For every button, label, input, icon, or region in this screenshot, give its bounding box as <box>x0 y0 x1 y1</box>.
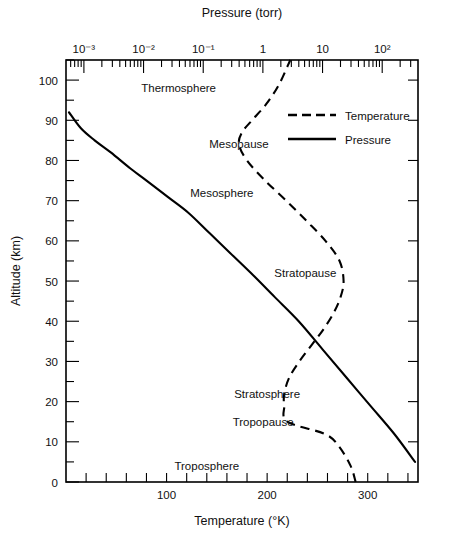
x-tick-label: 100 <box>157 489 176 501</box>
series-pressure-line <box>69 112 415 462</box>
y-tick-label: 90 <box>45 115 58 127</box>
y-tick-label: 30 <box>45 356 58 368</box>
y-tick-label: 70 <box>45 195 58 207</box>
top-tick-label: 10 <box>316 43 329 55</box>
x-tick-label: 300 <box>358 489 377 501</box>
x-axis-title: Temperature (°K) <box>194 514 289 528</box>
bottom-axis-tick-labels: 100200300 <box>157 489 377 501</box>
chart-figure: Pressure (torr) 10⁻³10⁻²10⁻¹11010² 01020… <box>0 0 476 541</box>
layer-label-stratopause: Stratopause <box>274 267 336 279</box>
right-axis-ticks <box>408 80 418 442</box>
y-tick-label: 0 <box>52 477 58 489</box>
top-axis-tick-labels: 10⁻³10⁻²10⁻¹11010² <box>73 43 391 55</box>
top-tick-label: 10⁻² <box>132 43 155 55</box>
legend-label-pressure: Pressure <box>345 134 391 146</box>
y-axis-title: Altitude (km) <box>9 236 23 306</box>
layer-label-mesopause: Mesopause <box>209 138 268 150</box>
bottom-axis-ticks <box>86 473 408 482</box>
y-tick-label: 60 <box>45 235 58 247</box>
y-tick-label: 50 <box>45 276 58 288</box>
top-tick-label: 1 <box>260 43 266 55</box>
top-tick-label: 10⁻¹ <box>192 43 215 55</box>
top-axis-title-group: Pressure (torr) <box>202 6 283 20</box>
layer-label-troposphere: Troposphere <box>174 460 239 472</box>
y-tick-label: 80 <box>45 155 58 167</box>
top-axis-ticks <box>71 60 411 73</box>
left-axis-tick-labels: 0102030405060708090100 <box>39 75 58 489</box>
y-tick-label: 100 <box>39 75 58 87</box>
top-tick-label: 10⁻³ <box>73 43 96 55</box>
chart-legend: TemperaturePressure <box>288 110 410 146</box>
x-tick-label: 200 <box>258 489 277 501</box>
top-tick-label: 10² <box>374 43 391 55</box>
top-axis-title: Pressure (torr) <box>202 6 283 20</box>
atmospheric-profile-chart: Pressure (torr) 10⁻³10⁻²10⁻¹11010² 01020… <box>0 0 476 541</box>
layer-label-stratosphere: Stratosphere <box>234 388 300 400</box>
y-tick-label: 40 <box>45 316 58 328</box>
layer-label-mesosphere: Mesosphere <box>190 187 253 199</box>
layer-label-thermosphere: Thermosphere <box>141 82 216 94</box>
legend-label-temperature: Temperature <box>345 110 410 122</box>
y-tick-label: 10 <box>45 436 58 448</box>
annotation-layer: ThermosphereMesopauseMesosphereStratopau… <box>141 82 336 472</box>
layer-label-tropopause: Tropopause <box>233 416 294 428</box>
y-tick-label: 20 <box>45 396 58 408</box>
